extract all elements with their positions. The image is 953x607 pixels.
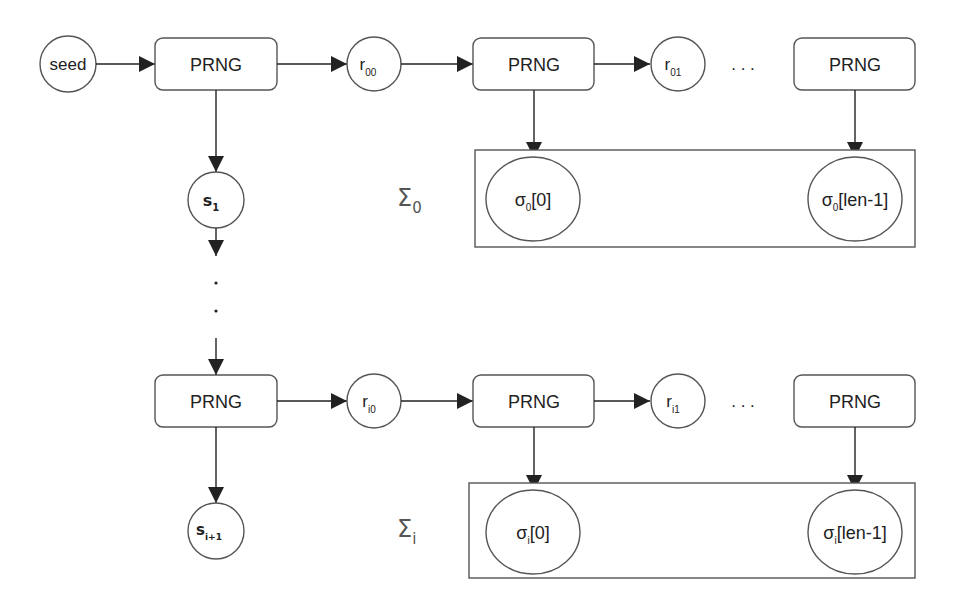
row-i: PRNG ri0 PRNG ri1 . . . PRNG <box>155 374 915 578</box>
seed-node: seed <box>40 36 96 92</box>
prng-label: PRNG <box>508 392 560 412</box>
prng-node-i-0: PRNG <box>155 375 277 427</box>
prng-node-0-0: PRNG <box>155 38 277 90</box>
random-node-r01: r01 <box>651 37 705 91</box>
sigma-0-label: Σ0 <box>397 184 422 217</box>
prng-label: PRNG <box>829 392 881 412</box>
vertical-continuation <box>214 228 217 375</box>
prng-node-i-2: PRNG <box>794 375 915 427</box>
prng-node-0-2: PRNG <box>794 38 915 90</box>
vertical-dot-2 <box>214 309 217 312</box>
svg-text:σi[0]: σi[0] <box>516 523 549 546</box>
s1-base: s <box>203 191 213 210</box>
sigma-0-group: σ0[0] σ0[len-1] <box>475 150 915 247</box>
s1-sub: 1 <box>212 202 219 213</box>
vertical-dot-1 <box>214 281 217 284</box>
random-node-ri1: ri1 <box>651 374 705 428</box>
prng-label: PRNG <box>190 55 242 75</box>
svg-text:σ0[len-1]: σ0[len-1] <box>822 190 889 213</box>
prng-label: PRNG <box>829 55 881 75</box>
sigma-i-label: Σi <box>397 515 416 548</box>
random-node-ri0: ri0 <box>347 374 401 428</box>
prng-label: PRNG <box>508 55 560 75</box>
svg-text:σ0[0]: σ0[0] <box>515 190 552 213</box>
row-0: seed PRNG r00 PRNG r01 <box>40 36 915 247</box>
state-node-si1: si+1 <box>188 503 244 559</box>
r01-sub: 01 <box>670 67 682 78</box>
r00-sub: 00 <box>365 67 377 78</box>
state-node-s1: s1 <box>188 172 244 228</box>
prng-label: PRNG <box>190 392 242 412</box>
prng-node-0-1: PRNG <box>473 38 594 90</box>
svg-text:σi[len-1]: σi[len-1] <box>823 523 886 546</box>
prng-diagram: seed PRNG r00 PRNG r01 <box>0 0 953 607</box>
prng-node-i-1: PRNG <box>473 375 594 427</box>
random-node-r00: r00 <box>347 37 401 91</box>
sigma-i-group: σi[0] σi[len-1] <box>469 483 915 578</box>
horizontal-ellipsis: . . . <box>731 55 755 74</box>
seed-label: seed <box>50 55 87 74</box>
horizontal-ellipsis: . . . <box>731 392 755 411</box>
